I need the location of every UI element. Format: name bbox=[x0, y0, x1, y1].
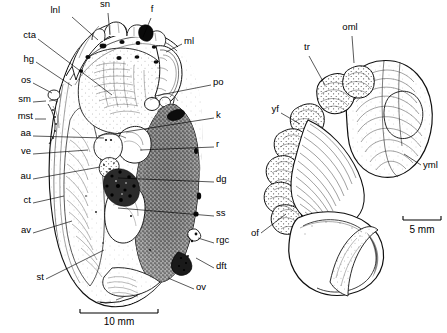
label-mst: mst bbox=[18, 110, 34, 121]
left-panel-drawing bbox=[33, 13, 214, 315]
label-oml: oml bbox=[342, 21, 357, 32]
label-sn: sn bbox=[100, 0, 110, 9]
label-dft: dft bbox=[216, 260, 227, 271]
ventricle-ve bbox=[94, 133, 122, 161]
label-po: po bbox=[213, 76, 224, 87]
right-panel-drawing bbox=[261, 36, 441, 296]
label-ss: ss bbox=[216, 207, 226, 218]
label-yf: yf bbox=[272, 103, 280, 114]
label-rgc: rgc bbox=[216, 234, 229, 245]
label-tr: tr bbox=[304, 41, 310, 52]
label-av: av bbox=[21, 224, 31, 235]
lobe-mid-upper bbox=[343, 66, 375, 98]
label-f: f bbox=[151, 3, 154, 14]
scale-bar-10mm bbox=[80, 309, 158, 313]
label-k: k bbox=[216, 109, 221, 120]
label-sm: sm bbox=[18, 93, 31, 104]
label-ve: ve bbox=[21, 145, 31, 156]
label-hg: hg bbox=[23, 53, 34, 64]
label-lnl: lnl bbox=[50, 4, 60, 15]
label-st: st bbox=[37, 271, 45, 282]
label-of: of bbox=[251, 227, 259, 238]
label-dg: dg bbox=[216, 173, 227, 184]
scale-bar-label-5mm: 5 mm bbox=[410, 224, 435, 235]
label-os: os bbox=[21, 74, 31, 85]
label-ov: ov bbox=[196, 281, 206, 292]
scale-bar-label-10mm: 10 mm bbox=[104, 316, 135, 327]
label-cta: cta bbox=[23, 29, 36, 40]
label-yml: yml bbox=[423, 159, 438, 170]
foot-structure-f bbox=[139, 25, 154, 41]
label-au: au bbox=[20, 170, 31, 181]
label-ct: ct bbox=[24, 194, 32, 205]
label-r: r bbox=[216, 138, 219, 149]
scale-bar-5mm bbox=[403, 216, 441, 220]
label-aa: aa bbox=[20, 127, 31, 138]
anatomical-figure: lnlsnfmlctahgossmmstaaveauctavstpokrdgss… bbox=[0, 0, 447, 333]
label-ml: ml bbox=[184, 35, 194, 46]
